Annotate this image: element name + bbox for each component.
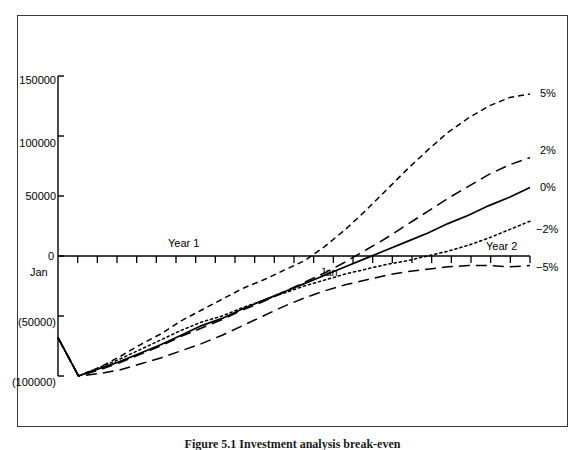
ytick-label-negative-100000: (100000) xyxy=(0,377,56,388)
series-label-negative-5-percent: −5% xyxy=(536,262,558,273)
ytick-label-50000: 50000 xyxy=(0,191,56,202)
ytick-label-150000: 150000 xyxy=(0,75,56,86)
chart-plot-area xyxy=(0,0,585,450)
series-line-0% xyxy=(58,188,530,376)
series-label-5-percent: 5% xyxy=(540,88,556,99)
series-label-negative-2-percent: −2% xyxy=(536,224,558,235)
xaxis-label-jan-year2: Jan xyxy=(320,267,338,278)
period-label-year-1: Year 1 xyxy=(168,238,199,249)
ytick-label-negative-50000: (50000) xyxy=(0,317,56,328)
figure-root: 150000 100000 50000 0 (50000) (100000) J… xyxy=(0,0,585,450)
series-label-2-percent: 2% xyxy=(540,145,556,156)
ytick-label-100000: 100000 xyxy=(0,138,56,149)
figure-caption: Figure 5.1 Investment analysis break-eve… xyxy=(0,437,585,450)
ytick-label-0: 0 xyxy=(0,251,54,262)
series-line-neg5% xyxy=(58,266,530,376)
series-line-neg2% xyxy=(58,221,530,376)
series-label-0-percent: 0% xyxy=(540,182,556,193)
period-label-year-2: Year 2 xyxy=(486,241,517,252)
xaxis-label-jan-year1: Jan xyxy=(30,267,48,278)
series-line-5% xyxy=(58,94,530,376)
